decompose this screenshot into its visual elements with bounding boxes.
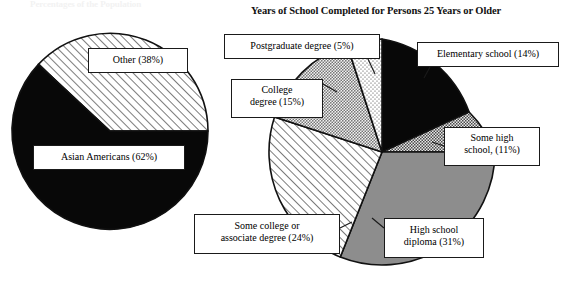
callout-other-label: Other (38%): [94, 54, 182, 66]
callout-elementary-school-label: Elementary school (14%): [423, 48, 553, 60]
callout-college-degree-line2: degree (15%): [237, 96, 317, 108]
callout-high-school-diploma-line2: diploma (31%): [390, 236, 478, 248]
figure-canvas: Percentages of the Population Years of S…: [0, 0, 568, 296]
callout-some-high-school: Some high school, (11%): [444, 127, 540, 166]
callout-college-degree: College degree (15%): [231, 79, 323, 118]
callout-asian-americans: Asian Americans (62%): [33, 145, 185, 170]
callout-elementary-school: Elementary school (14%): [417, 42, 559, 67]
callout-some-college-associate-line1: Some college or: [200, 220, 334, 232]
leader-high-school: [372, 218, 384, 228]
callout-high-school-diploma: High school diploma (31%): [384, 218, 484, 258]
callout-high-school-diploma-line1: High school: [390, 224, 478, 236]
leader-college-degree: [323, 84, 337, 92]
callout-asian-americans-label: Asian Americans (62%): [39, 151, 179, 163]
callout-some-high-school-line2: school, (11%): [450, 144, 534, 156]
leader-postgraduate: [368, 59, 375, 74]
callout-college-degree-line1: College: [237, 84, 317, 96]
left-chart-ghost-title: Percentages of the Population: [30, 0, 141, 9]
callout-postgraduate-degree-label: Postgraduate degree (5%): [230, 40, 374, 52]
leader-some-high-school: [432, 142, 444, 146]
leader-elementary: [424, 67, 430, 78]
leader-some-college: [340, 222, 352, 228]
callout-other: Other (38%): [88, 48, 188, 73]
right-chart-title: Years of School Completed for Persons 25…: [251, 5, 501, 16]
leader-lines: [323, 59, 444, 228]
callout-some-college-associate-line2: associate degree (24%): [200, 232, 334, 244]
callout-some-high-school-line1: Some high: [450, 132, 534, 144]
callout-postgraduate-degree: Postgraduate degree (5%): [224, 34, 380, 59]
callout-some-college-associate: Some college or associate degree (24%): [194, 214, 340, 254]
